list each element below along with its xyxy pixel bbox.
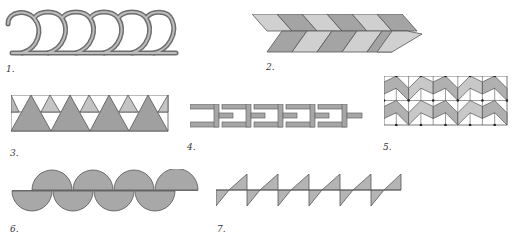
figure-2-label: 2.	[266, 62, 275, 72]
figure-7-label: 7.	[217, 224, 226, 234]
figure-5-zigzag-grid	[384, 76, 508, 126]
figure-4-chain	[190, 104, 365, 130]
figure-6-semicircles	[10, 169, 200, 215]
figure-7-sawtooth	[216, 174, 402, 210]
figure-2-chevron	[252, 14, 424, 56]
figure-4-label: 4.	[187, 142, 196, 152]
figure-3-label: 3.	[10, 148, 19, 158]
figure-3-triangles	[11, 95, 169, 133]
figure-6-label: 6.	[10, 224, 19, 234]
figure-1-label: 1.	[6, 64, 15, 74]
figure-5-label: 5.	[383, 142, 392, 152]
figure-1-loops	[4, 6, 179, 58]
